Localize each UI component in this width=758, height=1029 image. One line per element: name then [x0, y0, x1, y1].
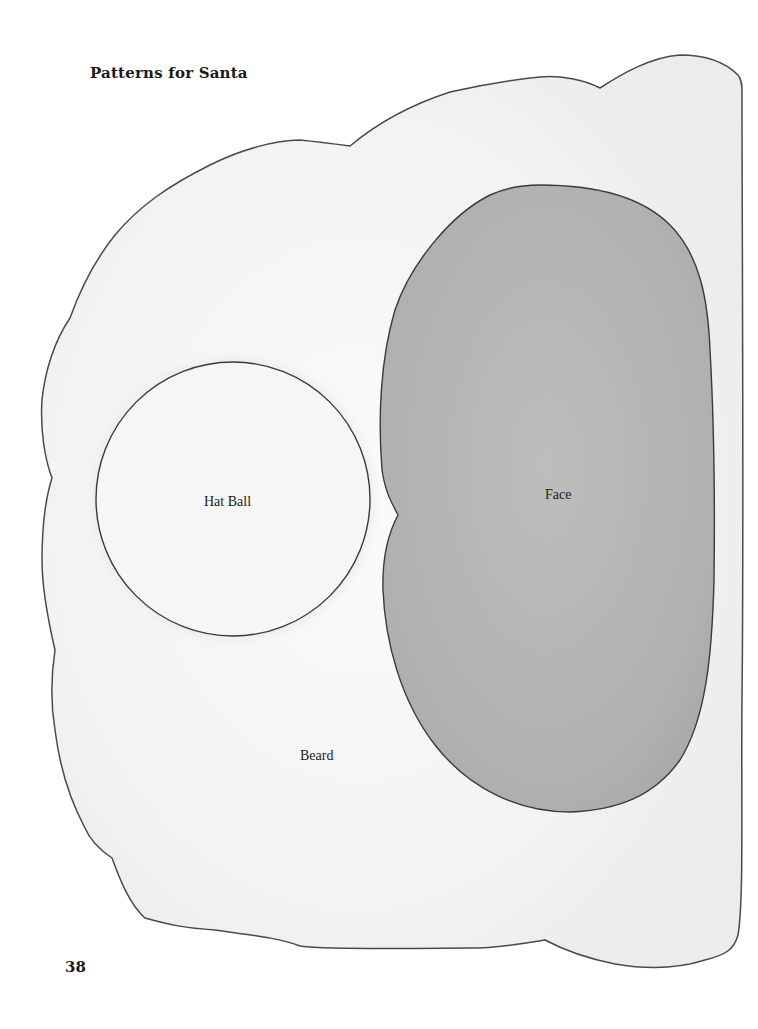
beard-label: Beard — [300, 748, 333, 764]
face-label: Face — [545, 487, 571, 503]
santa-pattern-drawing — [0, 0, 758, 1029]
hat-ball-label: Hat Ball — [204, 494, 251, 510]
page-number: 38 — [65, 958, 86, 976]
